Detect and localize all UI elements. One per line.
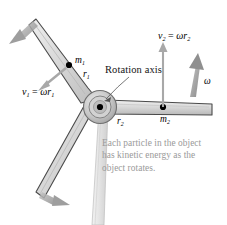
- radius-r1-label: r1: [83, 70, 90, 81]
- figure-caption: Each particle in the object has kinetic …: [102, 137, 220, 174]
- velocity-v1-label: v1 = ωr1: [22, 87, 54, 98]
- velocity-v2-label: v2 = ωr2: [158, 31, 190, 42]
- particle-m1: [66, 62, 72, 68]
- motion-arrow-bottom-left: [39, 192, 70, 206]
- mass-m1-label: m1: [75, 56, 85, 67]
- rotation-axis-center-point: [97, 104, 103, 110]
- blade-lower-left: [36, 106, 92, 198]
- angular-velocity-omega-label: ω: [204, 77, 211, 87]
- windmill-rotational-energy-figure: Rotation axis v2 = ωr2 v1 = ωr1 m1 r1 m2…: [0, 0, 227, 225]
- rotation-axis-leader-line: [106, 77, 129, 99]
- radius-r2-label: r2: [117, 117, 124, 128]
- rotor-hub: [84, 91, 117, 124]
- angular-velocity-arrow: [189, 53, 204, 97]
- figure-illustration: [0, 0, 227, 225]
- blade-right: [104, 100, 212, 115]
- caption-line-2: has kinetic energy as the: [102, 149, 220, 161]
- caption-line-1: Each particle in the object: [102, 137, 220, 149]
- caption-line-3: object rotates.: [102, 162, 220, 174]
- rotation-axis-label: Rotation axis: [105, 64, 162, 75]
- mass-m2-label: m2: [160, 115, 170, 126]
